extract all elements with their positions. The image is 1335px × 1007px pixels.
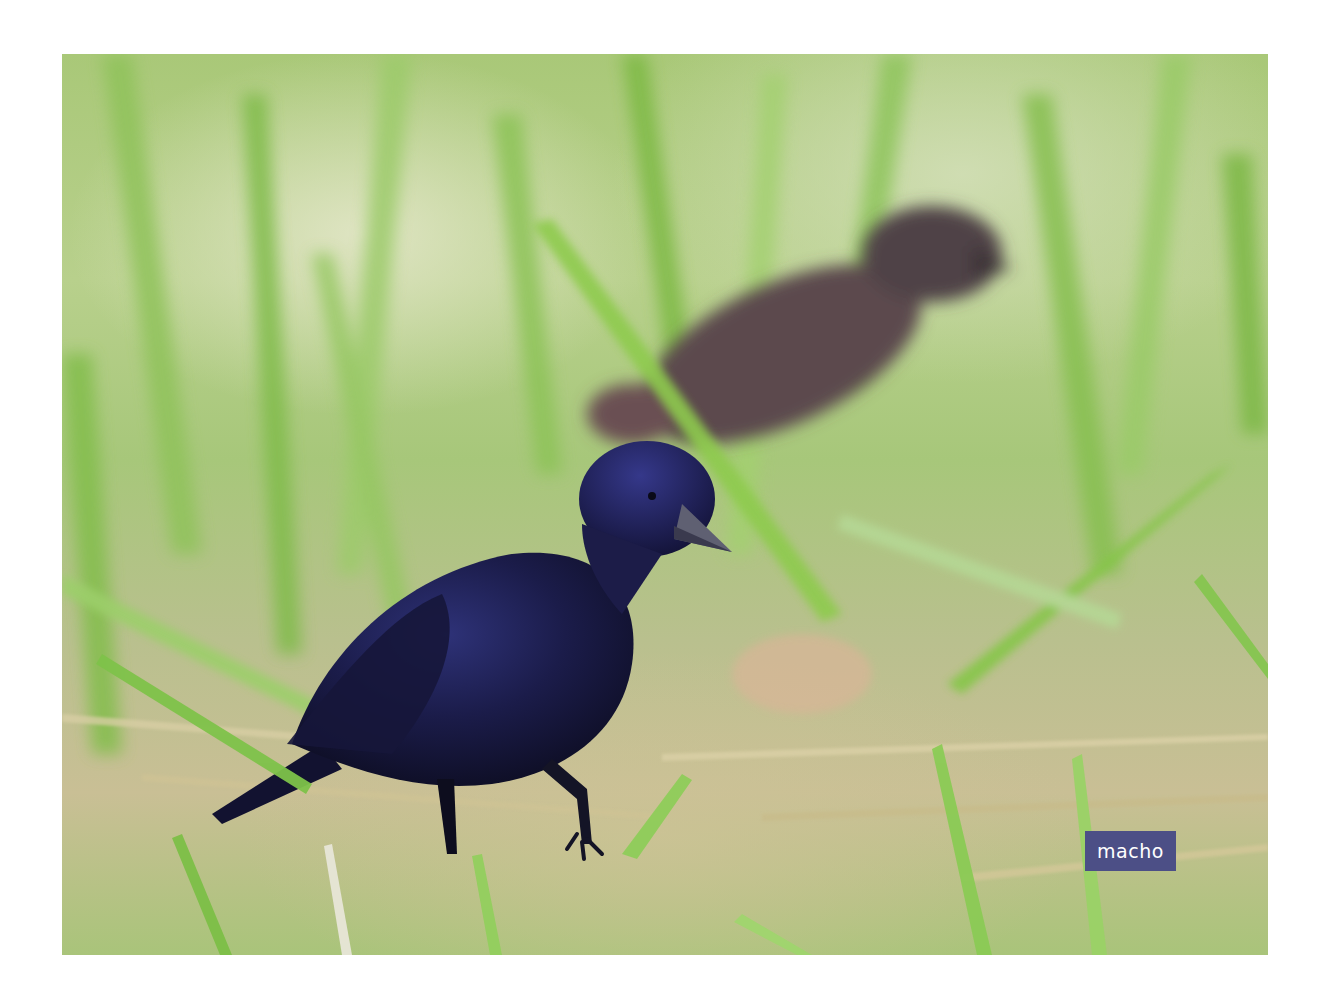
photo-scene	[62, 54, 1268, 955]
bird-photo	[62, 54, 1268, 955]
sex-label-badge: macho	[1085, 831, 1176, 871]
